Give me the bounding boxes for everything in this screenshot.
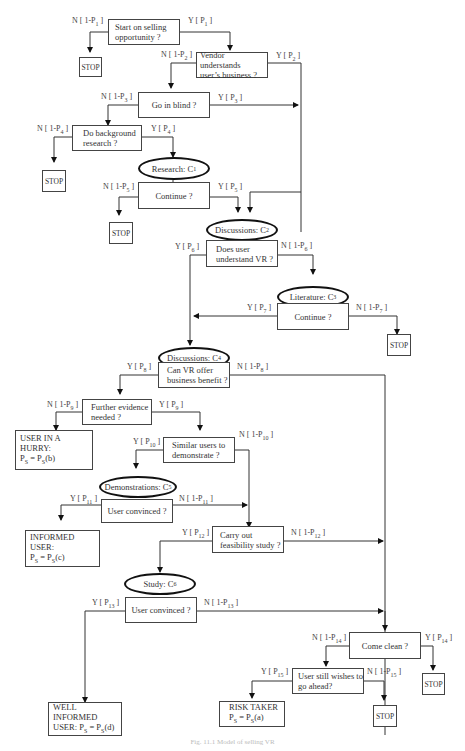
edge-label-y5: Y [ P5 ] bbox=[218, 182, 242, 193]
node-text: User convinced ? bbox=[131, 605, 190, 615]
stage-subscript: 2 bbox=[266, 227, 269, 233]
figure-caption: Fig. 11.1 Model of selling VR bbox=[0, 738, 465, 746]
edge-text: ] bbox=[342, 633, 347, 642]
vendor-understands-decision: Vendor understandsuser’s business ? bbox=[196, 52, 268, 78]
node-text: Go in blind ? bbox=[152, 100, 197, 110]
edge-label-y2: Y [ P2 ] bbox=[276, 51, 300, 62]
edge-text: ] bbox=[92, 494, 97, 503]
outcome-formula: PS = PS(a) bbox=[229, 712, 278, 726]
stop-box-6: STOP bbox=[373, 705, 397, 727]
edge-text: N [ 1-P bbox=[47, 400, 71, 409]
edge-text: Y [ P bbox=[92, 598, 109, 607]
edge-text: ] bbox=[130, 182, 135, 191]
edge-label-n4: N [ 1-P4 ] bbox=[37, 124, 68, 135]
edge-text: Y [ P bbox=[151, 124, 168, 133]
edge-label-n1: N [ 1-P1 ] bbox=[72, 16, 103, 27]
edge-text: N [ 1-P bbox=[239, 430, 263, 439]
edge-text: ] bbox=[308, 241, 313, 250]
demonstrations-stage-c5: Demonstrations: C5 bbox=[99, 476, 177, 498]
stop-text: STOP bbox=[376, 712, 394, 721]
user-convinced-decision-2: User convinced ? bbox=[125, 597, 197, 623]
feasibility-study-decision: Carry outfeasibility study ? bbox=[212, 526, 284, 553]
formula-part: USER: P bbox=[53, 722, 84, 732]
node-text: understand VR ? bbox=[216, 254, 273, 264]
node-text: Come clean ? bbox=[362, 641, 408, 651]
further-evidence-decision: Further evidenceneeded ? bbox=[82, 399, 152, 425]
edge-text: Y [ P bbox=[175, 242, 192, 251]
edge-text: Y [ P bbox=[159, 400, 176, 409]
node-text: demonstrate ? bbox=[172, 450, 225, 460]
edge-label-y14: Y [ P14 ] bbox=[425, 633, 452, 644]
edge-text: ] bbox=[171, 124, 176, 133]
edge-label-y6: Y [ P6 ] bbox=[175, 242, 199, 253]
edge-text: ] bbox=[205, 528, 210, 537]
edge-text: ] bbox=[188, 50, 193, 59]
edge-text: Y [ P bbox=[127, 362, 144, 371]
edge-label-y7: Y [ P7 ] bbox=[247, 303, 271, 314]
edge-text: Y [ P bbox=[70, 494, 87, 503]
edge-text: N [ 1-P bbox=[37, 124, 61, 133]
edge-text: N [ 1-P bbox=[72, 16, 96, 25]
edge-label-n8: N [ 1-P8 ] bbox=[237, 362, 268, 373]
edge-label-n7: N [ 1-P7 ] bbox=[356, 303, 387, 314]
edge-text: ] bbox=[269, 430, 274, 439]
edge-text: ] bbox=[64, 124, 69, 133]
stage-subscript: 6 bbox=[174, 581, 177, 587]
edge-text: Y [ P bbox=[133, 437, 150, 446]
stage-subscript: 1 bbox=[193, 166, 196, 172]
edge-label-y9: Y [ P9 ] bbox=[159, 400, 183, 411]
continue-decision-2: Continue ? bbox=[277, 303, 349, 330]
node-text: Start on selling bbox=[115, 22, 166, 32]
node-text: needed ? bbox=[91, 412, 148, 422]
edge-text: Y [ P bbox=[261, 667, 278, 676]
edge-text: ] bbox=[115, 598, 120, 607]
node-text: Do background bbox=[83, 128, 136, 138]
node-text: opportunity ? bbox=[115, 32, 166, 42]
stage-label: Demonstrations: C bbox=[105, 482, 169, 492]
edge-label-n12: N [ 1-P12 ] bbox=[291, 528, 325, 539]
risk-taker-outcome: RISK TAKER PS = PS(a) bbox=[219, 701, 285, 727]
node-text: feasibility study ? bbox=[220, 540, 280, 550]
discussions-stage-c2: Discussions: C2 bbox=[206, 219, 278, 241]
stop-box-1: STOP bbox=[79, 57, 102, 77]
edge-text: N [ 1-P bbox=[367, 667, 391, 676]
formula-part: (a) bbox=[254, 712, 263, 722]
edge-text: Y [ P bbox=[182, 528, 199, 537]
edge-text: N [ 1-P bbox=[103, 182, 127, 191]
stop-text: STOP bbox=[81, 63, 99, 72]
stage-subscript: 5 bbox=[168, 484, 171, 490]
formula-part: = P bbox=[87, 722, 101, 732]
formula-part: (b) bbox=[45, 453, 55, 463]
node-text: user’s business ? bbox=[200, 70, 267, 80]
edge-text: ] bbox=[234, 598, 239, 607]
edge-text: N [ 1-P bbox=[312, 633, 336, 642]
edge-label-n11: N [ 1-P11 ] bbox=[179, 494, 213, 505]
stage-label: Literature: C bbox=[290, 292, 334, 302]
node-text: Further evidence bbox=[91, 402, 148, 412]
node-text: go ahead? bbox=[298, 681, 363, 691]
stop-box-2: STOP bbox=[42, 170, 66, 192]
node-text: Does user bbox=[216, 244, 273, 254]
edge-text: Y [ P bbox=[425, 633, 442, 642]
node-text: Vendor understands bbox=[200, 50, 267, 70]
edge-label-n14: N [ 1-P14 ] bbox=[312, 633, 346, 644]
edge-text: ] bbox=[267, 303, 272, 312]
edge-text: ] bbox=[208, 494, 213, 503]
stage-label: Research: C bbox=[152, 164, 193, 174]
node-text: research ? bbox=[83, 138, 136, 148]
edge-text: Y [ P bbox=[188, 16, 205, 25]
edge-text: ] bbox=[195, 242, 200, 251]
outcome-formula: USER: PS = PS(d) bbox=[53, 722, 121, 736]
come-clean-decision: Come clean ? bbox=[349, 632, 421, 659]
edge-text: N [ 1-P bbox=[161, 50, 185, 59]
stop-box-4: STOP bbox=[387, 334, 411, 356]
understand-vr-decision: Does userunderstand VR ? bbox=[206, 240, 278, 267]
edge-text: Y [ P bbox=[218, 93, 235, 102]
edge-text: N [ 1-P bbox=[237, 362, 261, 371]
edge-text: ] bbox=[179, 400, 184, 409]
edge-text: ] bbox=[74, 400, 79, 409]
user-convinced-decision-1: User convinced ? bbox=[101, 499, 173, 523]
edge-text: ] bbox=[238, 182, 243, 191]
edge-text: N [ 1-P bbox=[101, 92, 125, 101]
informed-user-outcome: INFORMED USER: PS = PS(c) bbox=[25, 530, 100, 567]
